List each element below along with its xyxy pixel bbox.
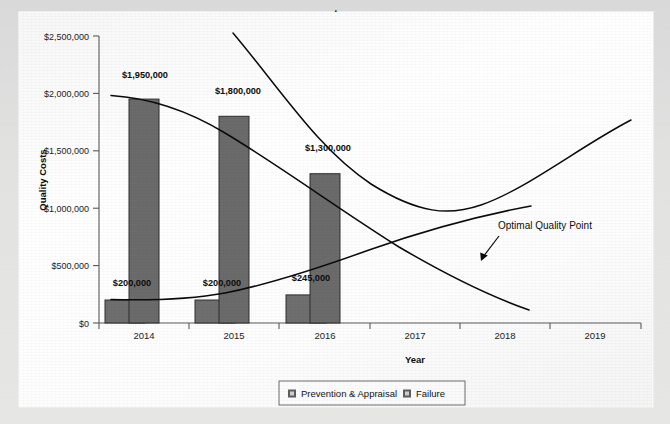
y-axis: $2,500,000 $2,000,000 $1,500,000 $1,000,… [44, 32, 99, 329]
x-tick-label-2017: 2017 [404, 330, 425, 341]
legend-entry-prevention-appraisal[interactable]: Prevention & Appraisal [288, 388, 397, 399]
bar-failure-2015[interactable] [219, 116, 249, 323]
legend-label-failure: Failure [416, 388, 445, 399]
bar-failure-2016[interactable] [310, 174, 340, 323]
x-tick-label-2016: 2016 [314, 330, 335, 341]
y-tick-label-0: $0 [79, 319, 89, 329]
x-tick-label-2019: 2019 [584, 330, 605, 341]
total-quality-cost-curve [233, 33, 631, 211]
y-tick-label-4: $2,000,000 [44, 89, 89, 99]
x-axis: 2014 2015 2016 2017 2018 2019 [99, 323, 641, 341]
data-label-failure-2015: $1,800,000 [215, 86, 261, 96]
bar-group-2015 [195, 116, 249, 323]
chart-legend: Prevention & Appraisal Failure [279, 381, 465, 405]
y-tick-label-3: $1,500,000 [44, 146, 89, 156]
legend-entry-failure[interactable]: Failure [403, 388, 445, 399]
bar-failure-2014[interactable] [129, 99, 159, 323]
optimal-quality-point-label: Optimal Quality Point [498, 220, 592, 231]
legend-label-prevention-appraisal: Prevention & Appraisal [301, 388, 397, 399]
chart-title-clipped: . [19, 3, 653, 12]
x-axis-title: Year [405, 354, 425, 365]
bar-group-2016 [286, 174, 340, 323]
optimal-quality-point-arrow-head [480, 253, 488, 261]
optimal-quality-point-annotation: Optimal Quality Point [480, 220, 592, 261]
y-tick-label-2: $1,000,000 [44, 204, 89, 214]
chart-card: . $2,500,000 $2,000,000 $1,500,000 $1,00… [18, 11, 654, 408]
x-tick-label-2014: 2014 [133, 330, 154, 341]
legend-swatch-prevention-appraisal-inner [290, 392, 294, 396]
data-label-prevention-2014: $200,000 [113, 278, 151, 288]
bar-group-2014 [105, 99, 159, 323]
x-tick-label-2015: 2015 [223, 330, 244, 341]
y-tick-label-5: $2,500,000 [44, 32, 89, 42]
quality-cost-chart: $2,500,000 $2,000,000 $1,500,000 $1,000,… [19, 12, 653, 407]
y-tick-label-1: $500,000 [51, 261, 89, 271]
screenshot-root: . $2,500,000 $2,000,000 $1,500,000 $1,00… [0, 0, 670, 424]
data-label-prevention-2015: $200,000 [203, 278, 241, 288]
legend-swatch-failure-inner [405, 392, 409, 396]
data-label-failure-2014: $1,950,000 [122, 70, 168, 80]
optimal-quality-point-arrow-line [483, 236, 499, 257]
y-axis-title: Quality Costs [37, 149, 48, 210]
x-tick-label-2018: 2018 [494, 330, 515, 341]
